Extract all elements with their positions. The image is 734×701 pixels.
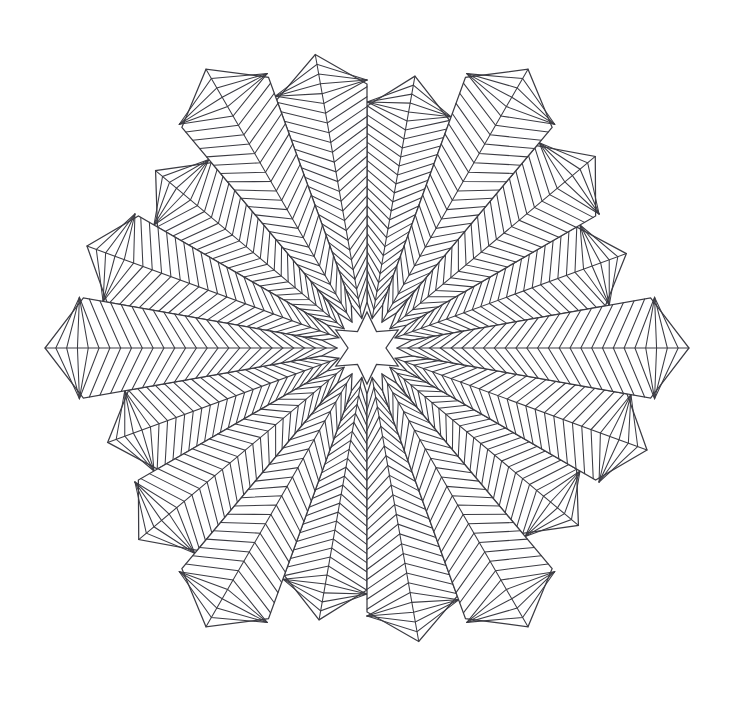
mandala-figure	[0, 0, 734, 701]
artwork-canvas	[0, 0, 734, 701]
